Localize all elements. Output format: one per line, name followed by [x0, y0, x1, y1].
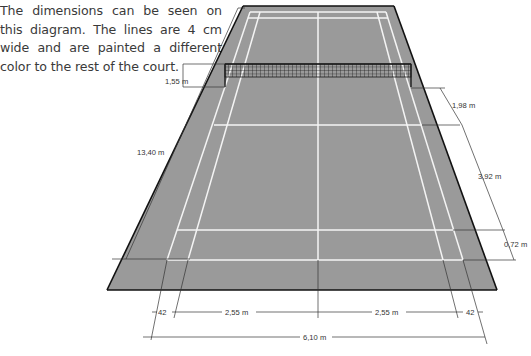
- label-net-height: 1,55 m: [165, 77, 188, 86]
- label-court-length: 13,40 m: [137, 148, 164, 157]
- court-surface: [107, 6, 497, 290]
- label-back-alley: 0,72 m: [504, 240, 527, 249]
- label-half-width-right: 2,55 m: [375, 308, 398, 317]
- label-side-alley-right: 42: [466, 308, 474, 317]
- badminton-court-diagram: 1,55 m 13,40 m 1,98 m 3,92 m 0,72 m 42 2…: [0, 0, 531, 356]
- label-court-width: 6,10 m: [303, 333, 326, 342]
- label-side-alley-left: 42: [158, 308, 166, 317]
- label-short-service: 1,98 m: [452, 101, 475, 110]
- label-service-length: 3,92 m: [478, 172, 501, 181]
- label-half-width-left: 2,55 m: [225, 308, 248, 317]
